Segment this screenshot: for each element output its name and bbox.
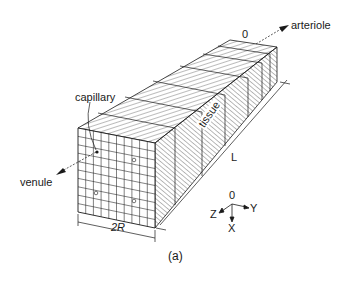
axes-triad xyxy=(219,204,249,222)
figure-caption: (a) xyxy=(168,250,183,262)
capillary-circle xyxy=(132,199,136,203)
axis-x-label: X xyxy=(228,223,235,234)
capillary-circle xyxy=(132,158,136,162)
axis-origin-label: 0 xyxy=(229,190,235,201)
front-face-grid xyxy=(78,128,155,228)
tissue-block-diagram xyxy=(0,0,355,285)
arteriole-label: arteriole xyxy=(291,20,331,31)
length-label: L xyxy=(231,152,237,163)
axis-z-label: Z xyxy=(210,209,217,220)
venule-label: venule xyxy=(20,177,52,188)
capillary-label: capillary xyxy=(75,92,115,103)
capillary-circle xyxy=(94,191,98,195)
axis-y-label: Y xyxy=(250,203,257,214)
arteriole-arrow xyxy=(256,25,289,44)
origin-label: 0 xyxy=(242,29,248,40)
width-label: 2R xyxy=(111,222,125,233)
